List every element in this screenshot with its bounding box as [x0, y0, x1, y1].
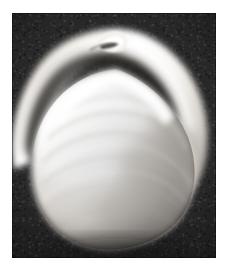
photo-plate [12, 13, 216, 258]
cast-shadow [48, 239, 184, 258]
image-canvas: Black and white photograph of a clam she… [0, 0, 232, 274]
clam-shell [12, 13, 216, 258]
clam-shell-illustration [12, 13, 216, 258]
